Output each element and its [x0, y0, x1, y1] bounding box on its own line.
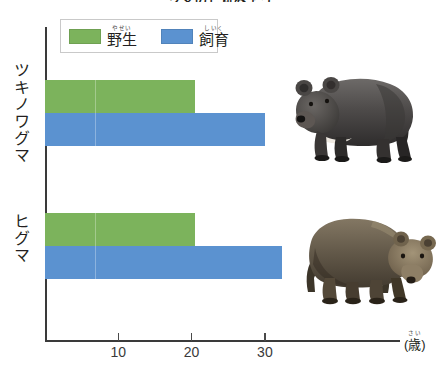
x-axis-tick-20 [191, 333, 192, 341]
bar-wild-0[interactable] [45, 80, 195, 113]
x-axis-tick-10 [118, 333, 119, 341]
legend-label-captive: しいく 飼育 [199, 25, 229, 48]
y-axis-line [45, 27, 47, 341]
x-axis-unit-ruby: さい [408, 330, 421, 337]
x-axis-tick-30 [264, 333, 265, 341]
bar-captive-0[interactable] [45, 113, 265, 146]
legend-swatch-wild [69, 29, 101, 44]
legend-text-wild: 野生 [107, 32, 137, 48]
chart-legend: やせい 野生 しいく 飼育 [60, 19, 218, 53]
bar-wild-1[interactable] [45, 213, 195, 246]
brown-bear-image [285, 198, 440, 306]
legend-swatch-captive [161, 29, 193, 44]
x-axis-line [45, 340, 400, 342]
asian-black-bear-image [284, 57, 436, 165]
x-axis-unit: さい (歳) [404, 330, 426, 352]
x-axis-tick-label-10: 10 [111, 344, 127, 360]
x-axis-tick-label-20: 20 [184, 344, 200, 360]
category-label-brown-bear: ヒグマ [12, 213, 28, 264]
legend-item-captive[interactable]: しいく 飼育 [161, 25, 229, 48]
page-title: クマのじゅみょう [0, 0, 442, 2]
category-label-asian-black-bear: ツキノワグマ [12, 62, 28, 164]
x-axis-tick-label-30: 30 [257, 344, 273, 360]
legend-item-wild[interactable]: やせい 野生 [69, 25, 137, 48]
legend-text-captive: 飼育 [199, 32, 229, 48]
bar-captive-1[interactable] [45, 246, 282, 279]
legend-label-wild: やせい 野生 [107, 25, 137, 48]
bear-lifespan-chart: クマのじゅみょう やせい 野生 しいく 飼育 102030 さい (歳) ツキノ… [0, 0, 442, 372]
x-axis-unit-label: (歳) [404, 337, 426, 352]
